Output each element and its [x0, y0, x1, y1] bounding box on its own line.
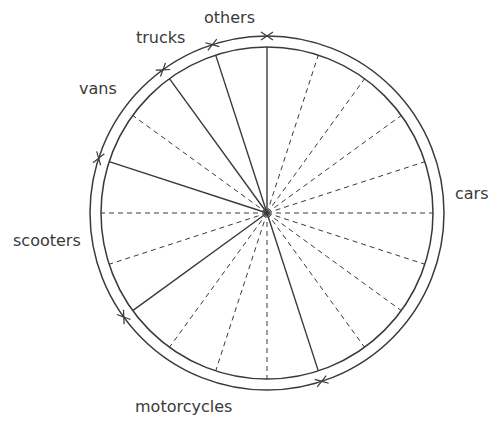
division-line [267, 79, 365, 213]
pie-diagram: cars motorcycles scooters vans trucks ot… [0, 0, 504, 427]
label-scooters: scooters [13, 233, 81, 249]
division-line [109, 213, 267, 264]
category-boundary-line [133, 213, 267, 311]
category-boundary-line [216, 55, 267, 213]
division-line [133, 115, 267, 213]
label-motorcycles: motorcycles [135, 399, 232, 415]
division-line [169, 213, 267, 347]
division-line [267, 115, 401, 213]
label-vans: vans [79, 81, 117, 97]
division-line [267, 213, 365, 347]
division-line [267, 162, 425, 213]
category-boundary-line [169, 79, 267, 213]
division-line [216, 213, 267, 371]
label-trucks: trucks [136, 30, 185, 46]
label-others: others [204, 10, 255, 26]
category-boundary-line [109, 162, 267, 213]
category-boundary-line [267, 213, 318, 371]
division-line [267, 213, 425, 264]
label-cars: cars [455, 186, 489, 202]
pie-chart-svg [0, 0, 504, 427]
division-line [267, 213, 401, 311]
division-line [267, 55, 318, 213]
